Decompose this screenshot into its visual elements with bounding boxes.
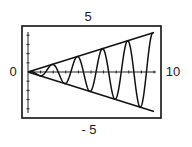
oscillating-curve: [28, 33, 153, 107]
xmax-label: 10: [166, 64, 180, 79]
ymin-label: - 5: [81, 122, 96, 137]
xmin-label: 0: [9, 64, 16, 79]
ymax-label: 5: [84, 9, 91, 24]
upper-envelope-line: [28, 32, 154, 72]
chart: 5 - 5 0 10: [0, 0, 192, 147]
